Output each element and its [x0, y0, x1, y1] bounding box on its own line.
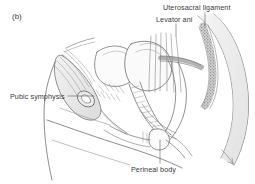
label-pubic-symphysis: Pubic symphysis [10, 92, 65, 101]
label-perineal-body: Perineal body [131, 165, 176, 174]
label-uterosacral-ligament: Uterosacral ligament [163, 3, 231, 12]
sacrum-vertebrae [203, 26, 213, 106]
introitus-contour [110, 126, 150, 140]
label-levator-ani: Levator ani [156, 15, 192, 24]
rectal-folds [96, 84, 124, 101]
anal-sphincter-arc [172, 136, 192, 156]
anatomical-figure: (b) Uterosacral ligament Levator ani Pub… [0, 0, 255, 184]
uterus-body [125, 41, 172, 91]
body-outline-group [44, 14, 248, 180]
vaginal-outlet-marks [143, 132, 147, 143]
thigh-crease [52, 140, 130, 165]
perineal-body [149, 129, 170, 150]
urethra [101, 110, 127, 133]
panel-tag: (b) [12, 12, 22, 21]
